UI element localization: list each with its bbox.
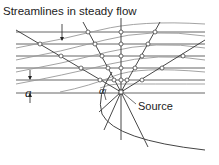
angle-label: α — [99, 84, 105, 96]
spacing-label: a — [25, 85, 32, 101]
source-point — [119, 90, 123, 94]
flow-diagram — [0, 0, 219, 165]
radial-lines — [16, 18, 205, 147]
source-label: Source — [138, 100, 173, 112]
